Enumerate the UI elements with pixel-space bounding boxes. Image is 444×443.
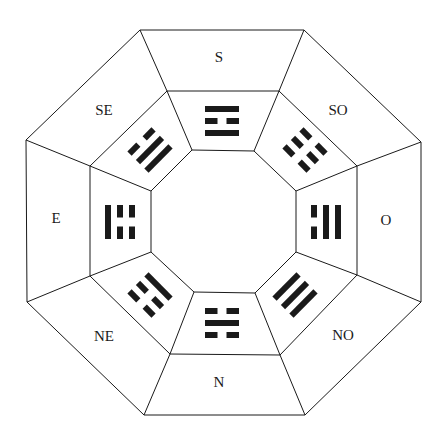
broken-line-right [205,308,218,314]
label-o: O [381,212,392,228]
broken-line-right [227,118,240,124]
solid-line [144,272,172,300]
broken-line-right [315,143,328,156]
label-ne: NE [94,328,114,344]
solid-line [323,205,329,239]
label-so: SO [328,102,347,118]
broken-line-right [117,205,123,218]
sector-dividers [26,30,421,415]
trigram-ne [127,272,172,317]
broken-line-right [298,160,311,173]
bagua-diagram: SSOONONNEESE [0,0,444,443]
broken-line-right [205,332,218,338]
broken-line-left [205,118,218,124]
trigram-s [205,106,239,136]
label-n: N [214,374,225,390]
broken-line-left [227,332,240,338]
broken-line-right [311,227,317,240]
outer-octagon [26,30,421,415]
label-se: SE [95,102,113,118]
broken-line-left [291,136,304,149]
label-no: NO [332,327,354,343]
broken-line-left [129,227,135,240]
broken-line-left [117,227,123,240]
label-e: E [51,210,60,226]
trigram-se [127,127,172,172]
solid-line [205,130,239,136]
broken-line-right [129,205,135,218]
solid-line [105,205,111,239]
trigram-e [105,205,135,239]
broken-line-right [136,281,149,294]
broken-line-left [311,205,317,218]
bagua-canvas: SSOONONNEESE [0,0,444,443]
solid-line [335,205,341,239]
broken-line-right [143,127,156,140]
broken-line-left [143,305,156,318]
broken-line-left [227,308,240,314]
trigrams [105,106,341,338]
label-s: S [215,49,223,65]
broken-line-right [306,151,319,164]
solid-line [205,320,239,326]
trigram-no [272,272,317,317]
sector-divider [296,142,421,191]
trigram-so [282,127,327,172]
trigram-n [205,308,239,338]
solid-line [205,106,239,112]
octagon-rings [26,30,421,415]
broken-line-left [127,143,140,156]
inner-octagon [151,150,296,293]
broken-line-left [151,296,164,309]
broken-line-left [282,144,295,157]
trigram-o [311,205,341,239]
broken-line-left [299,127,312,140]
broken-line-right [127,289,140,302]
